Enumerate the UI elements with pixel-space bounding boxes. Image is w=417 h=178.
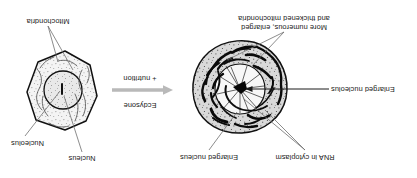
right-cell-graphic [27,51,97,130]
diagram-canvas: RNA in cytoplasm Enlarged nucleus Enlarg… [0,0,417,178]
transition-arrow-graphic [112,85,173,95]
label-enlarged-nucleus: Enlarged nucleus [159,153,259,162]
leader-rna-a [265,110,305,150]
arrow-head [163,85,173,95]
label-rna-in-cytoplasm: RNA in cytoplasm [251,153,359,162]
left-cell-graphic [193,41,287,133]
right-nucleus [44,71,82,109]
transition-label-line2: + nutrition [101,74,179,83]
rotated-figure-group: RNA in cytoplasm Enlarged nucleus Enlarg… [0,0,417,178]
label-left-mitochondria: More numerous, enlarged and thickened mi… [213,14,355,32]
label-right-nucleus: Nucleus [49,154,115,163]
label-right-mitochondria: Mitochondria [10,17,86,26]
transition-label-line1: Ecdysone [101,101,179,110]
label-right-nucleolus: Nucleolus [0,139,55,148]
label-enlarged-nucleolus: Enlarged nucleolus [331,85,417,94]
